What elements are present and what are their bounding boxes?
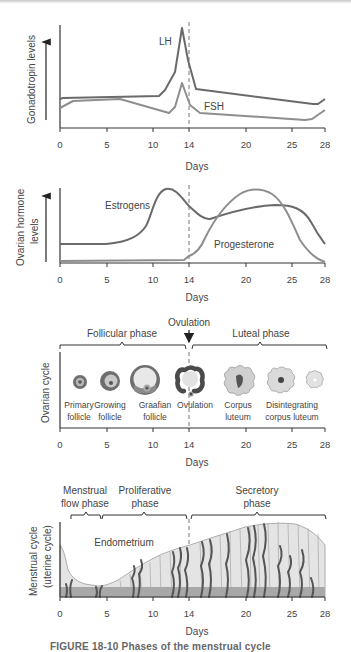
stage-label: follicle (143, 412, 167, 422)
stage-labels: Primary follicle Growing follicle Graafi… (64, 400, 318, 422)
svg-text:25: 25 (287, 139, 298, 150)
progesterone-line (60, 190, 325, 263)
svg-text:14: 14 (184, 139, 195, 150)
svg-text:5: 5 (104, 608, 109, 619)
ovarian-hormone-ylabel-line1: Ovarian hormone (15, 188, 26, 266)
corpus-luteum-icon (224, 366, 255, 396)
estrogens-label: Estrogens (105, 200, 150, 211)
disintegrating-corpus-luteum-icon (267, 367, 295, 393)
follicular-phase-label: Follicular phase (87, 328, 157, 339)
svg-text:20: 20 (241, 139, 252, 150)
fsh-label: FSH (204, 101, 224, 112)
svg-text:14: 14 (184, 608, 195, 619)
svg-text:10: 10 (148, 439, 159, 450)
graafian-follicle-icon (130, 365, 160, 395)
stage-label: Graafian (139, 400, 172, 410)
svg-text:25: 25 (287, 439, 298, 450)
ovulation-marker-label: Ovulation (168, 317, 210, 328)
progesterone-label: Progesterone (214, 239, 274, 250)
gonadotropin-panel: Gonadotropin levels LH FSH 0 5 10 14 20 … (26, 22, 330, 172)
secretory-phase-label: phase (243, 498, 271, 509)
endometrium-label: Endometrium (94, 537, 153, 548)
stage-label: Growing (94, 400, 126, 410)
endometrium-functional-layer (60, 523, 325, 597)
svg-text:10: 10 (148, 608, 159, 619)
figure-caption: FIGURE 18-10 Phases of the menstrual cyc… (50, 641, 271, 652)
primary-follicle-icon (73, 375, 87, 389)
proliferative-brace (102, 512, 187, 519)
secretory-phase-label: Secretory (236, 485, 279, 496)
menstrual-ylabel-line2: (uterine cycle) (42, 525, 53, 588)
svg-text:5: 5 (104, 274, 109, 285)
menstrual-phase-label: Menstrual (63, 485, 107, 496)
svg-text:14: 14 (184, 274, 195, 285)
menstrual-ylabel-line1: Menstrual cycle (28, 526, 39, 596)
menstrual-cycle-panel: Menstrual flow phase Proliferative phase… (28, 485, 330, 637)
days-label: Days (186, 161, 209, 172)
luteal-phase-label: Luteal phase (232, 328, 290, 339)
stage-label: follicle (98, 412, 122, 422)
fsh-line (60, 83, 325, 120)
svg-text:5: 5 (104, 139, 109, 150)
phase-labels: Menstrual flow phase Proliferative phase… (61, 485, 278, 509)
disintegrating-corpus-luteum-small-icon (306, 371, 323, 388)
svg-text:28: 28 (320, 439, 331, 450)
days-label: Days (186, 626, 209, 637)
ovarian-cycle-panel: Ovulation Follicular phase Luteal phase … (40, 317, 330, 468)
ovulation-follicle-icon (177, 368, 202, 397)
svg-text:0: 0 (57, 274, 62, 285)
growing-follicle-icon (100, 371, 120, 391)
secretory-brace (191, 512, 326, 519)
lh-label: LH (159, 36, 172, 47)
stage-label: corpus luteum (265, 412, 318, 422)
stage-label: Corpus (224, 400, 251, 410)
svg-text:10: 10 (148, 139, 159, 150)
proliferative-phase-label: phase (131, 498, 159, 509)
svg-text:25: 25 (287, 608, 298, 619)
svg-text:25: 25 (287, 274, 298, 285)
stage-label: follicle (67, 412, 91, 422)
svg-text:0: 0 (57, 608, 62, 619)
luteal-brace (192, 342, 327, 349)
ovarian-hormone-ylabel-line2: levels (29, 218, 40, 244)
svg-text:10: 10 (148, 274, 159, 285)
x-tick-labels: 0 5 10 14 20 25 28 (57, 439, 330, 450)
svg-text:0: 0 (57, 139, 62, 150)
menstrual-phase-label: flow phase (61, 498, 109, 509)
svg-text:20: 20 (241, 274, 252, 285)
x-tick-labels: 0 5 10 14 20 25 28 (57, 274, 330, 285)
days-label: Days (186, 457, 209, 468)
lh-line (60, 28, 325, 104)
menstrual-brace (71, 512, 101, 519)
svg-text:0: 0 (57, 439, 62, 450)
svg-text:20: 20 (241, 439, 252, 450)
stage-label: Primary (64, 400, 94, 410)
svg-text:14: 14 (184, 439, 195, 450)
proliferative-phase-label: Proliferative (119, 485, 172, 496)
follicular-brace (60, 342, 186, 349)
gonadotropin-ylabel: Gonadotropin levels (26, 35, 37, 124)
svg-text:28: 28 (320, 274, 331, 285)
svg-text:28: 28 (320, 139, 331, 150)
ovarian-hormone-panel: Ovarian hormone levels Estrogens Progest… (15, 185, 330, 303)
stage-label: Ovulation (177, 400, 213, 410)
stage-label: luteum (225, 412, 251, 422)
x-tick-labels: 0 5 10 14 20 25 28 (57, 608, 330, 619)
ovarian-cycle-ylabel: Ovarian cycle (40, 362, 51, 423)
svg-text:20: 20 (241, 608, 252, 619)
svg-text:5: 5 (104, 439, 109, 450)
estrogens-line (60, 189, 325, 244)
svg-text:28: 28 (320, 608, 331, 619)
stage-label: Disintegrating (266, 400, 318, 410)
x-tick-labels: 0 5 10 14 20 25 28 (57, 139, 330, 150)
days-label: Days (186, 292, 209, 303)
